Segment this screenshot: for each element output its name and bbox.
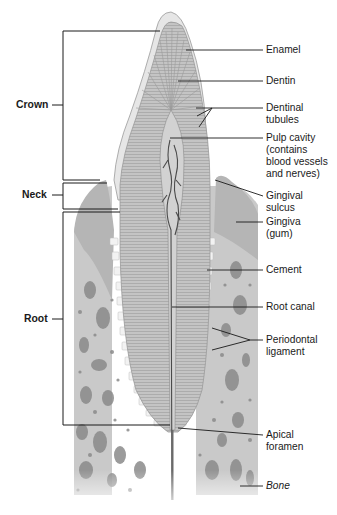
label-line: (gum) xyxy=(266,228,301,240)
label-line: tubules xyxy=(266,114,303,126)
label-line: blood vessels xyxy=(266,156,328,168)
label-root-canal: Root canal xyxy=(266,301,315,313)
label-line: Apical xyxy=(266,429,303,441)
label-cement: Cement xyxy=(266,264,302,276)
label-line: Pulp cavity xyxy=(266,132,328,144)
label-crown: Crown xyxy=(16,99,48,111)
label-line: ligament xyxy=(266,346,318,358)
label-root: Root xyxy=(24,313,48,325)
label-line: Gingival xyxy=(266,190,303,202)
label-line: sulcus xyxy=(266,202,303,214)
label-neck: Neck xyxy=(22,189,47,201)
label-line: Gingiva xyxy=(266,216,301,228)
label-periodontal-ligament: Periodontal ligament xyxy=(266,334,318,358)
label-pulp-cavity: Pulp cavity (contains blood vessels and … xyxy=(266,132,328,180)
label-gingiva: Gingiva (gum) xyxy=(266,216,301,240)
label-enamel: Enamel xyxy=(266,44,301,56)
label-line: foramen xyxy=(266,441,303,453)
label-line: (contains xyxy=(266,144,328,156)
label-bone: Bone xyxy=(266,480,290,492)
label-dentinal-tubules: Dentinal tubules xyxy=(266,102,303,126)
label-line: Periodontal xyxy=(266,334,318,346)
label-apical-foramen: Apical foramen xyxy=(266,429,303,453)
label-line: Dentinal xyxy=(266,102,303,114)
label-gingival-sulcus: Gingival sulcus xyxy=(266,190,303,214)
label-line: and nerves) xyxy=(266,168,328,180)
label-dentin: Dentin xyxy=(266,75,295,87)
